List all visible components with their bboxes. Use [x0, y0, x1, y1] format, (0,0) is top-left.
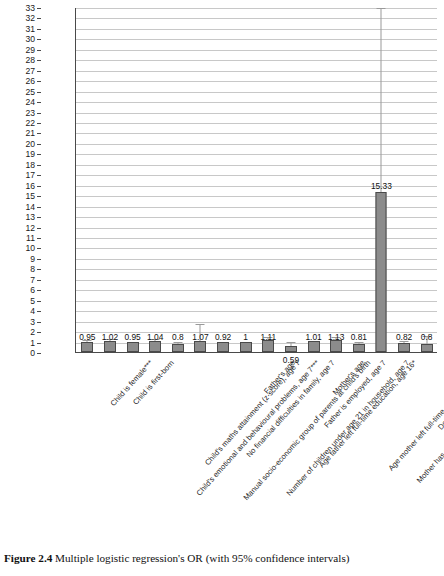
y-tick-mark [37, 92, 41, 93]
bar[interactable] [81, 342, 93, 352]
y-tick-label: 32 [25, 14, 35, 23]
y-tick-label: 24 [25, 98, 35, 107]
y-tick-mark [37, 29, 41, 30]
y-tick-label: 3 [30, 317, 35, 326]
bar[interactable] [330, 340, 342, 352]
y-tick-label: 22 [25, 119, 35, 128]
y-tick-mark [37, 280, 41, 281]
y-tick-mark [37, 332, 41, 333]
y-tick-label: 27 [25, 66, 35, 75]
y-tick-mark [37, 311, 41, 312]
bar[interactable] [149, 341, 161, 352]
y-tick-mark [37, 259, 41, 260]
y-tick-mark [37, 71, 41, 72]
y-tick-label: 33 [25, 4, 35, 13]
category-label: Child is first-born [132, 359, 176, 407]
y-tick-mark [37, 196, 41, 197]
y-tick-mark [37, 322, 41, 323]
bar-value-label: 1.11 [260, 333, 276, 341]
category-labels: Child is female***Child is first-bornChi… [0, 353, 444, 533]
y-tick-mark [37, 207, 41, 208]
y-tick-label: 5 [30, 296, 35, 305]
bar-group: 0.95 [121, 8, 144, 352]
bar-group: 0.95 [76, 8, 99, 352]
bar-group: 0.59 [280, 8, 303, 352]
y-tick-mark [37, 8, 41, 9]
y-tick-label: 12 [25, 223, 35, 232]
y-tick-mark [37, 165, 41, 166]
y-tick-mark [37, 301, 41, 302]
y-tick-mark [37, 186, 41, 187]
y-tick-mark [37, 18, 41, 19]
bar[interactable] [127, 342, 139, 352]
bar[interactable] [398, 343, 410, 352]
bar-value-label: 1 [243, 333, 248, 341]
error-bar-cap-upper [354, 342, 363, 343]
bar-value-label: 0.95 [79, 333, 95, 341]
y-tick-mark [37, 175, 41, 176]
bar[interactable] [285, 346, 297, 352]
bar-group: 0.8 [167, 8, 190, 352]
y-tick-label: 6 [30, 286, 35, 295]
y-tick-label: 18 [25, 161, 35, 170]
y-tick-label: 26 [25, 77, 35, 86]
y-tick-label: 23 [25, 108, 35, 117]
y-tick-label: 13 [25, 213, 35, 222]
bar[interactable] [194, 341, 206, 352]
bar-value-label: 0.82 [396, 333, 412, 341]
bar-group: 1.11 [257, 8, 280, 352]
y-tick-mark [37, 290, 41, 291]
category-label-text: Child is first-born [132, 359, 176, 407]
bar[interactable] [308, 341, 320, 352]
y-tick-label: 31 [25, 25, 35, 34]
bar[interactable] [172, 344, 184, 352]
error-bar-cap-upper [377, 8, 386, 9]
bars-layer: 0.951.020.951.040.81.070.9211.110.591.01… [76, 8, 437, 352]
bar[interactable] [353, 344, 365, 352]
y-tick-label: 9 [30, 255, 35, 264]
y-tick-mark [37, 343, 41, 344]
y-tick-label: 28 [25, 56, 35, 65]
y-tick-label: 4 [30, 307, 35, 316]
y-tick-label: 11 [26, 234, 35, 243]
y-tick-label: 30 [25, 35, 35, 44]
caption-label: Figure 2.4 [4, 552, 52, 564]
bar[interactable] [217, 342, 229, 352]
bar[interactable] [240, 342, 252, 352]
bar-value-label: 1.01 [305, 333, 321, 341]
bar-value-label: 0.81 [351, 333, 367, 341]
bar-value-label: 1.04 [147, 333, 163, 341]
bar[interactable] [104, 341, 116, 352]
bar-group: 1.07 [189, 8, 212, 352]
bar-group: 0.81 [348, 8, 371, 352]
y-tick-label: 10 [25, 244, 35, 253]
y-tick-label: 2 [30, 328, 35, 337]
bar-group: 1.13 [325, 8, 348, 352]
y-tick-mark [37, 269, 41, 270]
bar-value-label: 15.33 [371, 182, 392, 190]
figure-container: 3332313029282726252423222120191817161514… [0, 0, 444, 576]
y-tick-mark [37, 248, 41, 249]
error-bar-cap-upper [286, 342, 295, 343]
bar[interactable] [376, 192, 387, 352]
y-tick-mark [37, 144, 41, 145]
caption-text: Multiple logistic regression's OR (with … [55, 552, 349, 564]
bar[interactable] [262, 340, 274, 352]
y-tick-label: 21 [25, 129, 35, 138]
bar-group: 0.8 [415, 8, 438, 352]
bar-value-label: 0.8 [421, 333, 433, 341]
bar[interactable] [421, 344, 433, 352]
y-tick-mark [37, 217, 41, 218]
y-tick-mark [37, 81, 41, 82]
bar-value-label: 0.92 [215, 333, 231, 341]
bar-value-label: 1.07 [192, 333, 208, 341]
y-tick-mark [37, 228, 41, 229]
bar-value-label: 1.13 [328, 333, 344, 341]
bar-group: 0.92 [212, 8, 235, 352]
figure-caption: Figure 2.4 Multiple logistic regression'… [4, 551, 440, 565]
bar-value-label: 0.95 [124, 333, 140, 341]
y-tick-mark [37, 50, 41, 51]
y-tick-mark [37, 133, 41, 134]
y-tick-mark [37, 123, 41, 124]
y-tick-label: 15 [25, 192, 35, 201]
